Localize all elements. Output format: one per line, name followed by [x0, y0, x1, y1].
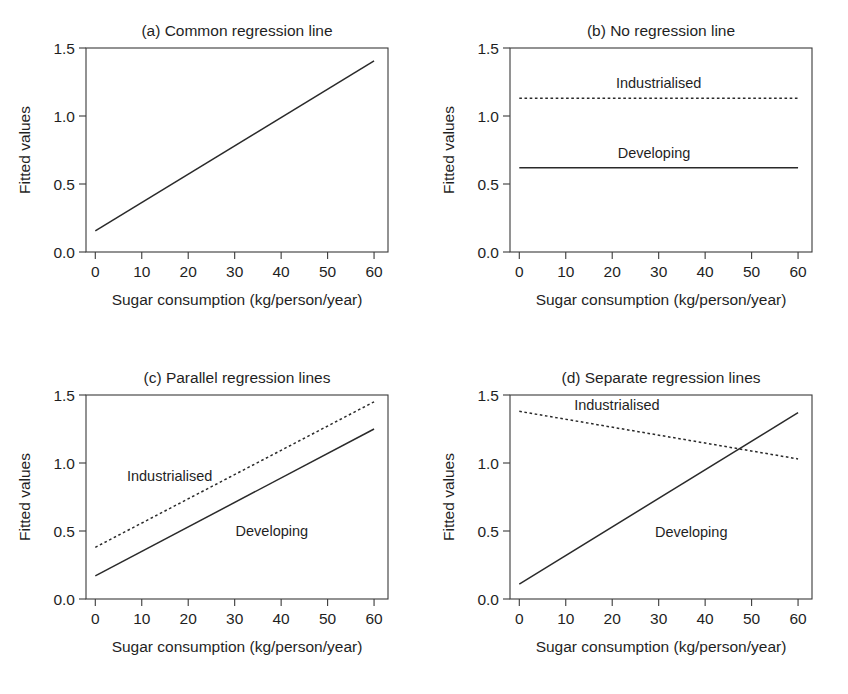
x-tick-label: 30 — [650, 263, 668, 280]
regression-figure: (a) Common regression line0.00.51.01.501… — [0, 0, 848, 694]
x-tick-label: 40 — [273, 610, 291, 627]
x-tick-label: 60 — [365, 610, 383, 627]
y-tick-label: 0.0 — [477, 591, 499, 608]
x-tick-label: 50 — [743, 610, 761, 627]
x-tick-label: 0 — [91, 610, 100, 627]
x-tick-label: 30 — [226, 263, 244, 280]
x-tick-label: 10 — [133, 263, 151, 280]
series-label-developing: Developing — [655, 524, 728, 540]
x-axis-title: Sugar consumption (kg/person/year) — [536, 638, 787, 655]
x-tick-label: 30 — [226, 610, 244, 627]
x-axis-title: Sugar consumption (kg/person/year) — [536, 291, 787, 308]
y-tick-label: 1.5 — [477, 387, 499, 404]
series-line-industrialised — [519, 411, 798, 459]
y-tick-label: 1.0 — [477, 455, 499, 472]
x-tick-label: 60 — [365, 263, 383, 280]
x-axis-title: Sugar consumption (kg/person/year) — [112, 291, 363, 308]
y-axis-title: Fitted values — [440, 453, 457, 541]
series-line-common — [95, 61, 374, 231]
x-tick-label: 10 — [557, 610, 575, 627]
panel-title: (c) Parallel regression lines — [144, 369, 331, 386]
x-tick-label: 40 — [273, 263, 291, 280]
y-axis-title: Fitted values — [16, 453, 33, 541]
plot-frame — [86, 48, 388, 252]
x-tick-label: 10 — [557, 263, 575, 280]
x-tick-label: 50 — [743, 263, 761, 280]
y-axis-title: Fitted values — [440, 106, 457, 194]
x-tick-label: 40 — [697, 263, 715, 280]
y-axis-title: Fitted values — [16, 106, 33, 194]
x-tick-label: 20 — [604, 610, 622, 627]
y-tick-label: 0.5 — [53, 523, 75, 540]
panel-title: (d) Separate regression lines — [561, 369, 760, 386]
x-axis-title: Sugar consumption (kg/person/year) — [112, 638, 363, 655]
x-tick-label: 20 — [604, 263, 622, 280]
series-label-industrialised: Industrialised — [127, 468, 212, 484]
y-tick-label: 1.5 — [53, 40, 75, 57]
series-label-industrialised: Industrialised — [616, 75, 701, 91]
y-tick-label: 1.5 — [477, 40, 499, 57]
y-tick-label: 1.0 — [53, 455, 75, 472]
x-tick-label: 50 — [319, 263, 337, 280]
y-tick-label: 0.0 — [53, 244, 75, 261]
y-tick-label: 1.5 — [53, 387, 75, 404]
x-tick-label: 60 — [789, 610, 807, 627]
x-tick-label: 0 — [91, 263, 100, 280]
panel-title: (a) Common regression line — [141, 22, 332, 39]
x-tick-label: 0 — [515, 263, 524, 280]
y-tick-label: 1.0 — [53, 108, 75, 125]
panel-title: (b) No regression line — [587, 22, 735, 39]
series-label-industrialised: Industrialised — [574, 397, 659, 413]
chart-panel-b: (b) No regression line0.00.51.01.5010203… — [424, 0, 848, 347]
x-tick-label: 0 — [515, 610, 524, 627]
series-line-developing — [95, 429, 374, 576]
series-label-developing: Developing — [618, 145, 691, 161]
x-tick-label: 10 — [133, 610, 151, 627]
series-label-developing: Developing — [236, 523, 309, 539]
x-tick-label: 50 — [319, 610, 337, 627]
y-tick-label: 0.0 — [53, 591, 75, 608]
x-tick-label: 30 — [650, 610, 668, 627]
series-line-developing — [519, 413, 798, 584]
y-tick-label: 0.5 — [53, 176, 75, 193]
chart-panel-a: (a) Common regression line0.00.51.01.501… — [0, 0, 424, 347]
x-tick-label: 40 — [697, 610, 715, 627]
chart-panel-d: (d) Separate regression lines0.00.51.01.… — [424, 347, 848, 694]
plot-frame — [86, 395, 388, 599]
y-tick-label: 0.5 — [477, 523, 499, 540]
x-tick-label: 60 — [789, 263, 807, 280]
x-tick-label: 20 — [180, 610, 198, 627]
y-tick-label: 0.0 — [477, 244, 499, 261]
y-tick-label: 0.5 — [477, 176, 499, 193]
x-tick-label: 20 — [180, 263, 198, 280]
chart-panel-c: (c) Parallel regression lines0.00.51.01.… — [0, 347, 424, 694]
y-tick-label: 1.0 — [477, 108, 499, 125]
